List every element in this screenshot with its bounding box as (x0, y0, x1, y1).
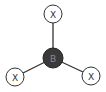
ligand-bottom-left: X (6, 68, 24, 86)
molecule-diagram: X X X B (0, 0, 106, 92)
center-atom: B (43, 48, 63, 68)
ligand-top: X (44, 5, 62, 23)
center-atom-label: B (50, 54, 56, 64)
ligand-label: X (12, 73, 18, 83)
ligand-label: X (88, 72, 94, 82)
ligand-bottom-right: X (82, 67, 100, 85)
ligand-label: X (50, 10, 56, 20)
